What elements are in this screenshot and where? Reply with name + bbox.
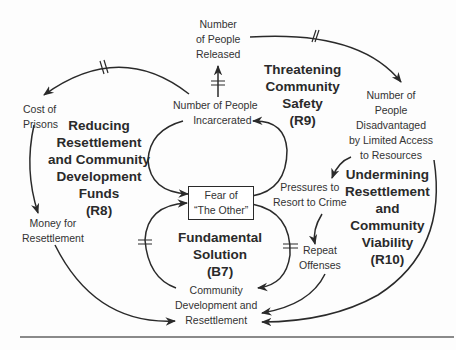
delay-mark [312, 30, 319, 42]
link-repeat-to-community [262, 274, 325, 313]
loop-label-r9: Threatening Community Safety (R9) [264, 61, 341, 129]
loop-label-r10: Undermining Resettlement and Community V… [345, 166, 430, 268]
variable-money-for-resettlement: Money for Resettlement [22, 216, 84, 246]
delay-mark [100, 60, 108, 74]
link-incarcerated-to-fear [148, 121, 188, 194]
variable-people-released: Number of People Released [196, 17, 240, 62]
link-pressures-to-repeat [314, 214, 322, 244]
variable-community-development: Community Development and Resettlement [175, 283, 257, 328]
variable-pressures-to-resort-to-crime: Pressures to Resort to Crime [273, 180, 347, 210]
loop-label-r8: Reducing Resettlement and Community Deve… [48, 117, 150, 219]
variable-people-incarcerated: Number of People Incarcerated [173, 98, 258, 128]
loop-label-b7: Fundamental Solution (B7) [178, 229, 262, 280]
variable-repeat-offenses: Repeat Offenses [299, 243, 341, 273]
variable-people-disadvantaged: Number of People Disadvantaged by Limite… [349, 88, 433, 163]
variable-fear-of-the-other: Fear of “The Other” [188, 186, 254, 220]
bottom-divider [20, 336, 454, 338]
link-incarcerated-to-cost [44, 67, 189, 95]
link-money-to-community [55, 245, 175, 321]
link-cost-to-money [30, 125, 38, 213]
